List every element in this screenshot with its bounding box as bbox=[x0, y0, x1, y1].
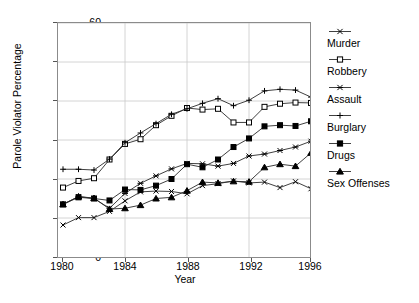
legend-swatch-murder bbox=[327, 26, 367, 37]
legend-label-murder: Murder bbox=[327, 37, 419, 49]
legend-swatch-sex-offenses bbox=[327, 166, 367, 177]
chart-legend: Murder Robbery Assault Burglary Drugs Se… bbox=[327, 26, 419, 194]
legend-swatch-burglary bbox=[327, 110, 367, 121]
chart-figure: 60 50 40 30 20 10 0 Parole Violator Perc… bbox=[0, 0, 419, 303]
x-tick-label-1984: 1984 bbox=[105, 261, 145, 272]
x-tick-label-1980: 1980 bbox=[42, 261, 82, 272]
x-tick-label-1996: 1996 bbox=[290, 261, 330, 272]
x-tick-label-1992: 1992 bbox=[231, 261, 271, 272]
chart-canvas bbox=[58, 23, 310, 257]
legend-label-robbery: Robbery bbox=[327, 65, 419, 77]
legend-item-robbery: Robbery bbox=[327, 54, 419, 77]
plot-area bbox=[57, 22, 311, 258]
legend-item-burglary: Burglary bbox=[327, 110, 419, 133]
legend-item-drugs: Drugs bbox=[327, 138, 419, 161]
legend-item-murder: Murder bbox=[327, 26, 419, 49]
y-axis-title: Parole Violator Percentage bbox=[11, 26, 23, 186]
legend-swatch-robbery bbox=[327, 54, 367, 65]
x-tick-label-1988: 1988 bbox=[168, 261, 208, 272]
legend-swatch-drugs bbox=[327, 138, 367, 149]
legend-label-burglary: Burglary bbox=[327, 121, 419, 133]
legend-label-assault: Assault bbox=[327, 93, 419, 105]
legend-item-sex-offenses: Sex Offenses bbox=[327, 166, 419, 189]
x-axis-title: Year bbox=[150, 273, 220, 285]
legend-item-assault: Assault bbox=[327, 82, 419, 105]
legend-label-drugs: Drugs bbox=[327, 149, 419, 161]
legend-label-sex-offenses: Sex Offenses bbox=[327, 177, 419, 189]
legend-swatch-assault bbox=[327, 82, 367, 93]
